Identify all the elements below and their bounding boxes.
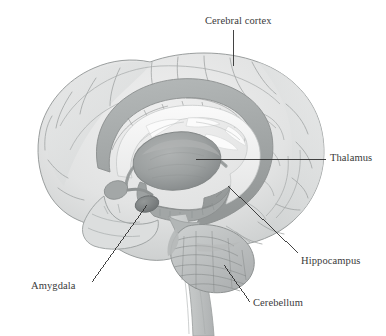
label-cerebellum: Cerebellum [253,298,303,309]
label-amygdala: Amygdala [31,281,76,292]
label-thalamus: Thalamus [330,153,372,164]
label-cerebral-cortex: Cerebral cortex [205,16,272,27]
label-hippocampus: Hippocampus [301,256,360,267]
figure-canvas: Cerebral cortex Thalamus Hippocampus Amy… [0,0,386,336]
